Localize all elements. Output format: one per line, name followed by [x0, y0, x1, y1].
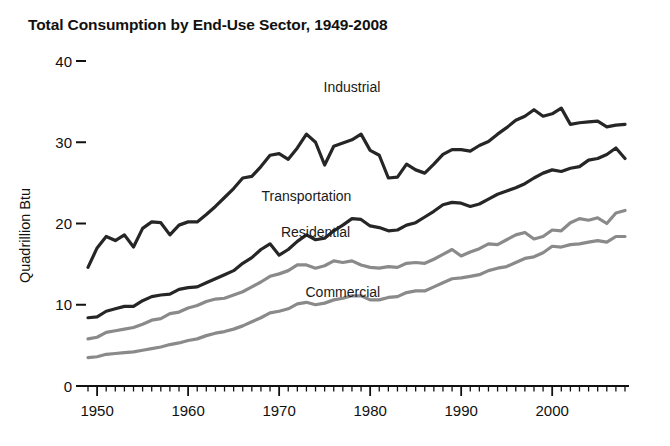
y-axis: 010203040 [55, 53, 86, 395]
x-tick-label: 1990 [444, 402, 477, 419]
y-tick-label: 20 [55, 215, 72, 232]
x-tick-label: 1950 [80, 402, 113, 419]
x-tick-label: 1960 [171, 402, 204, 419]
x-axis: 195019601970198019902000 [80, 386, 629, 419]
x-tick-label: 1970 [262, 402, 295, 419]
series-label-industrial: Industrial [324, 79, 381, 95]
series-line-residential [88, 211, 625, 339]
series-label-residential: Residential [281, 224, 350, 240]
x-tick-label: 2000 [535, 402, 568, 419]
y-tick-label: 40 [55, 53, 72, 70]
y-tick-label: 30 [55, 134, 72, 151]
y-tick-label: 10 [55, 296, 72, 313]
chart-figure: Total Consumption by End-Use Sector, 194… [0, 0, 670, 446]
y-tick-label: 0 [64, 378, 72, 395]
line-chart-plot: 010203040 195019601970198019902000 Indus… [0, 0, 670, 446]
series-line-industrial [88, 108, 625, 267]
x-tick-label: 1980 [353, 402, 386, 419]
series-label-commercial: Commercial [306, 284, 381, 300]
data-series-group [88, 108, 625, 357]
series-label-transportation: Transportation [262, 188, 352, 204]
y-axis-title: Quadrillion Btu [17, 188, 33, 283]
